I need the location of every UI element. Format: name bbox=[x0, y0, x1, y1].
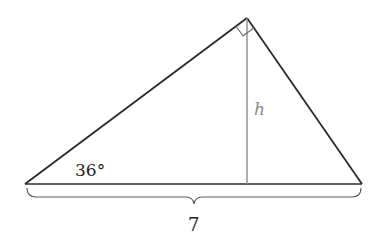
angle-label: 36° bbox=[75, 160, 105, 180]
triangle-diagram: 36° h 7 bbox=[0, 0, 377, 246]
left-side bbox=[25, 18, 247, 184]
right-angle-marker bbox=[236, 26, 255, 36]
altitude-label: h bbox=[254, 99, 265, 119]
base-brace bbox=[27, 188, 361, 204]
base-length-label: 7 bbox=[188, 214, 199, 235]
